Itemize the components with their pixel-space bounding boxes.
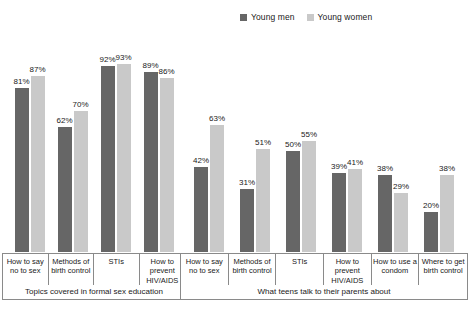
- bar-value-label: 20%: [423, 202, 439, 210]
- bar-value-label: 62%: [56, 117, 72, 125]
- category-label-area: How to say no to sexMethods of birth con…: [0, 253, 468, 300]
- legend-item-young-women: Young women: [307, 13, 373, 22]
- bar[interactable]: 70%: [74, 30, 88, 252]
- bar-rect: [424, 212, 438, 252]
- bar-rect: [144, 72, 158, 252]
- bar-value-label: 42%: [193, 157, 209, 165]
- bar[interactable]: 92%: [101, 30, 115, 252]
- bar-rect: [348, 169, 362, 252]
- bar-value-label: 93%: [115, 54, 131, 62]
- category-label: Where to get birth control: [419, 254, 467, 285]
- category-label: How to say no to sex: [181, 254, 229, 285]
- bar[interactable]: 89%: [144, 30, 158, 252]
- bar-category-slot: 42%63%: [186, 30, 232, 252]
- bar-value-label: 81%: [13, 78, 29, 86]
- bar-rect: [31, 76, 45, 252]
- bar-rect: [302, 141, 316, 252]
- category-label: How to say no to sex: [3, 254, 49, 285]
- plot-area: 81%87%62%70%92%93%89%86%42%63%31%51%50%5…: [0, 30, 468, 252]
- bar-rect: [160, 78, 174, 252]
- bar-category-slot: 89%86%: [137, 30, 180, 252]
- legend-label: Young women: [318, 13, 373, 22]
- bar-rect: [101, 66, 115, 252]
- bar-rect: [117, 64, 131, 252]
- category-label: STIs: [94, 254, 140, 285]
- category-label: How to prevent HIV/AIDS: [140, 254, 186, 285]
- bar[interactable]: 20%: [424, 30, 438, 252]
- bar-rect: [286, 151, 300, 252]
- bar-rect: [240, 189, 254, 252]
- bar[interactable]: 50%: [286, 30, 300, 252]
- bar-pair: 31%51%: [240, 30, 270, 252]
- group-label-box-formal-sex-education: How to say no to sexMethods of birth con…: [2, 253, 186, 300]
- chart-legend: Young men Young women: [240, 13, 372, 22]
- bar[interactable]: 55%: [302, 30, 316, 252]
- category-cells: How to say no to sexMethods of birth con…: [3, 254, 185, 285]
- bar[interactable]: 87%: [31, 30, 45, 252]
- bar[interactable]: 86%: [160, 30, 174, 252]
- bar-pair: 20%38%: [424, 30, 454, 252]
- bar[interactable]: 62%: [58, 30, 72, 252]
- bar-rect: [394, 193, 408, 252]
- bar-pair: 92%93%: [101, 30, 131, 252]
- bar-value-label: 87%: [29, 66, 45, 74]
- bar-pair: 42%63%: [194, 30, 224, 252]
- bar-rect: [440, 175, 454, 252]
- category-label: Methods of birth control: [229, 254, 277, 285]
- bar-value-label: 55%: [301, 131, 317, 139]
- bar-pair: 62%70%: [58, 30, 88, 252]
- bar-pair: 81%87%: [15, 30, 45, 252]
- bar-value-label: 31%: [239, 179, 255, 187]
- bar-rect: [194, 167, 208, 252]
- legend-item-young-men: Young men: [240, 13, 295, 22]
- bar-rect: [332, 173, 346, 252]
- bar-value-label: 38%: [377, 165, 393, 173]
- bar-value-label: 51%: [255, 139, 271, 147]
- legend-label: Young men: [251, 13, 295, 22]
- bar[interactable]: 81%: [15, 30, 29, 252]
- bar-pair: 38%29%: [378, 30, 408, 252]
- bar-rect: [74, 111, 88, 252]
- bar-category-slot: 62%70%: [51, 30, 94, 252]
- bar[interactable]: 42%: [194, 30, 208, 252]
- bar[interactable]: 38%: [440, 30, 454, 252]
- bar[interactable]: 41%: [348, 30, 362, 252]
- bar-group: 81%87%62%70%92%93%89%86%: [8, 30, 180, 252]
- bar-pair: 50%55%: [286, 30, 316, 252]
- bar-group: 42%63%31%51%50%55%39%41%38%29%20%38%: [186, 30, 462, 252]
- bar-category-slot: 20%38%: [416, 30, 462, 252]
- category-cells: How to say no to sexMethods of birth con…: [181, 254, 467, 285]
- bar-category-slot: 39%41%: [324, 30, 370, 252]
- legend-swatch-icon: [240, 14, 247, 21]
- bar[interactable]: 31%: [240, 30, 254, 252]
- group-caption: What teens talk to their parents about: [181, 285, 467, 299]
- bar-value-label: 70%: [72, 101, 88, 109]
- group-label-box-talk-to-parents: How to say no to sexMethods of birth con…: [180, 253, 468, 300]
- bar-rect: [210, 125, 224, 252]
- bar-rect: [15, 88, 29, 252]
- bar[interactable]: 39%: [332, 30, 346, 252]
- bar-chart: Young men Young women 81%87%62%70%92%93%…: [0, 0, 468, 324]
- category-label: How to use a condom: [372, 254, 420, 285]
- bar-value-label: 63%: [209, 115, 225, 123]
- bar-category-slot: 81%87%: [8, 30, 51, 252]
- group-caption: Topics covered in formal sex education: [3, 285, 185, 299]
- bar-value-label: 41%: [347, 159, 363, 167]
- legend-swatch-icon: [307, 14, 314, 21]
- bar[interactable]: 93%: [117, 30, 131, 252]
- bar[interactable]: 63%: [210, 30, 224, 252]
- bar-value-label: 29%: [393, 183, 409, 191]
- bar-value-label: 38%: [439, 165, 455, 173]
- bar-pair: 89%86%: [144, 30, 174, 252]
- category-label: Methods of birth control: [49, 254, 95, 285]
- bar[interactable]: 29%: [394, 30, 408, 252]
- bar-rect: [58, 127, 72, 252]
- bar[interactable]: 38%: [378, 30, 392, 252]
- bar[interactable]: 51%: [256, 30, 270, 252]
- bar-value-label: 89%: [142, 62, 158, 70]
- bar-category-slot: 31%51%: [232, 30, 278, 252]
- bar-rect: [256, 149, 270, 252]
- category-label: STIs: [276, 254, 324, 285]
- bar-value-label: 92%: [99, 56, 115, 64]
- bar-value-label: 50%: [285, 141, 301, 149]
